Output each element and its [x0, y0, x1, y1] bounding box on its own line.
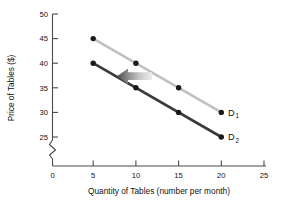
data-point-d2-5-40	[91, 61, 96, 66]
data-point-d2-15-30	[176, 110, 181, 115]
x-axis-title: Quantity of Tables (number per month)	[88, 186, 230, 196]
y-tick-label-45: 45	[40, 34, 48, 43]
y-tick-label-35: 35	[40, 84, 48, 93]
demand-curve-figure: 50 45 40 35 30 25 0 5 10 15 20 25 Quanti…	[0, 0, 289, 204]
curve-label-d1: D 1	[228, 108, 239, 120]
curve-label-d2-text: D	[228, 132, 235, 142]
x-tick-label-15: 15	[174, 171, 182, 180]
y-axis	[50, 14, 56, 166]
data-point-d2-20-25	[219, 134, 224, 139]
curve-label-d1-subscript: 1	[235, 112, 239, 119]
y-tick-label-50: 50	[40, 10, 48, 19]
y-tick-label-25: 25	[40, 133, 48, 142]
data-point-d1-15-35	[176, 85, 181, 90]
x-tick-label-10: 10	[132, 171, 140, 180]
x-tick-label-20: 20	[217, 171, 225, 180]
chart-canvas: 50 45 40 35 30 25 0 5 10 15 20 25 Quanti…	[0, 0, 289, 204]
data-point-d1-5-45	[91, 36, 96, 41]
x-tick-label-0: 0	[50, 171, 54, 180]
y-tick-label-30: 30	[40, 108, 48, 117]
curve-label-d1-text: D	[228, 108, 235, 118]
data-point-d1-20-30	[219, 110, 224, 115]
y-axis-tick-labels: 50 45 40 35 30 25	[40, 10, 48, 142]
demand-curve-d2	[91, 61, 225, 140]
y-axis-title: Price of Tables ($)	[6, 54, 16, 121]
data-point-d1-10-40	[133, 61, 138, 66]
data-point-d2-10-35	[133, 85, 138, 90]
curve-label-d2-subscript: 2	[235, 137, 239, 144]
x-tick-label-25: 25	[260, 171, 268, 180]
y-tick-label-40: 40	[40, 59, 48, 68]
x-tick-label-5: 5	[91, 171, 95, 180]
x-axis-ticks	[93, 161, 264, 167]
x-axis-tick-labels: 0 5 10 15 20 25	[50, 171, 268, 180]
demand-curve-d1	[91, 36, 225, 115]
curve-label-d2: D 2	[228, 132, 239, 144]
y-axis-ticks	[53, 14, 59, 137]
